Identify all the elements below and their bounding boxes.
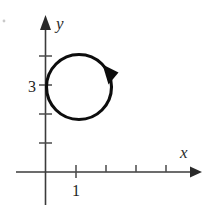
oriented-circle-group [47, 55, 119, 120]
y-axis-arrowhead-icon [40, 15, 51, 30]
scan-artifact-smudge [3, 20, 6, 23]
x-axis-label: x [179, 143, 188, 162]
y-axis-label: y [54, 14, 64, 33]
clockwise-direction-arrowhead-icon [103, 65, 119, 85]
y-axis-group [39, 15, 52, 205]
x-axis-tick-label-1: 1 [72, 182, 80, 199]
x-axis-group [16, 165, 202, 178]
circle-curve [47, 55, 112, 120]
figure-canvas: y x 3 1 [0, 0, 206, 210]
x-axis-arrowhead-icon [190, 167, 202, 178]
coordinate-plane-figure: y x 3 1 [0, 0, 206, 210]
y-axis-tick-label-3: 3 [28, 78, 36, 95]
